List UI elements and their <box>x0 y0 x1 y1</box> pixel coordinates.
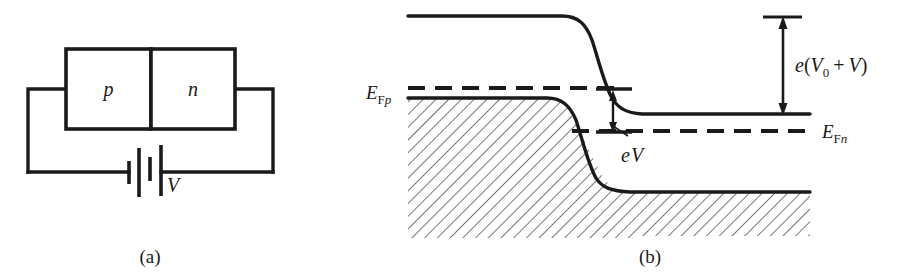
wire-right <box>235 89 273 172</box>
panel-a-caption: (a) <box>139 246 160 268</box>
applied-bias-label: eV <box>621 144 646 166</box>
fermi-level-n-label: EFn <box>821 121 847 146</box>
wire-left <box>28 89 66 172</box>
pn-junction-figure: p n V (a) <box>0 0 905 279</box>
applied-bias-annotation: eV <box>596 89 646 166</box>
valence-fill-n <box>625 185 820 245</box>
panel-b-caption: (b) <box>639 246 661 268</box>
barrier-label: e(V0+V) <box>795 54 867 80</box>
panel-b: EFp EFn e(V0+V) <box>365 16 867 268</box>
figure-root: p n V (a) <box>0 0 905 279</box>
semiconductor-block: p n <box>66 49 235 129</box>
battery-voltage-label: V <box>167 174 182 196</box>
n-region-label: n <box>188 78 198 100</box>
fermi-level-p-label: EFp <box>365 82 392 107</box>
barrier-annotation: e(V0+V) <box>763 16 867 116</box>
battery-symbol <box>129 145 161 197</box>
p-region-label: p <box>102 78 114 101</box>
panel-a: p n V (a) <box>28 49 273 268</box>
